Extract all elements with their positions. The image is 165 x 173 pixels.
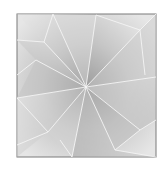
pencil-drawing [0, 0, 165, 173]
